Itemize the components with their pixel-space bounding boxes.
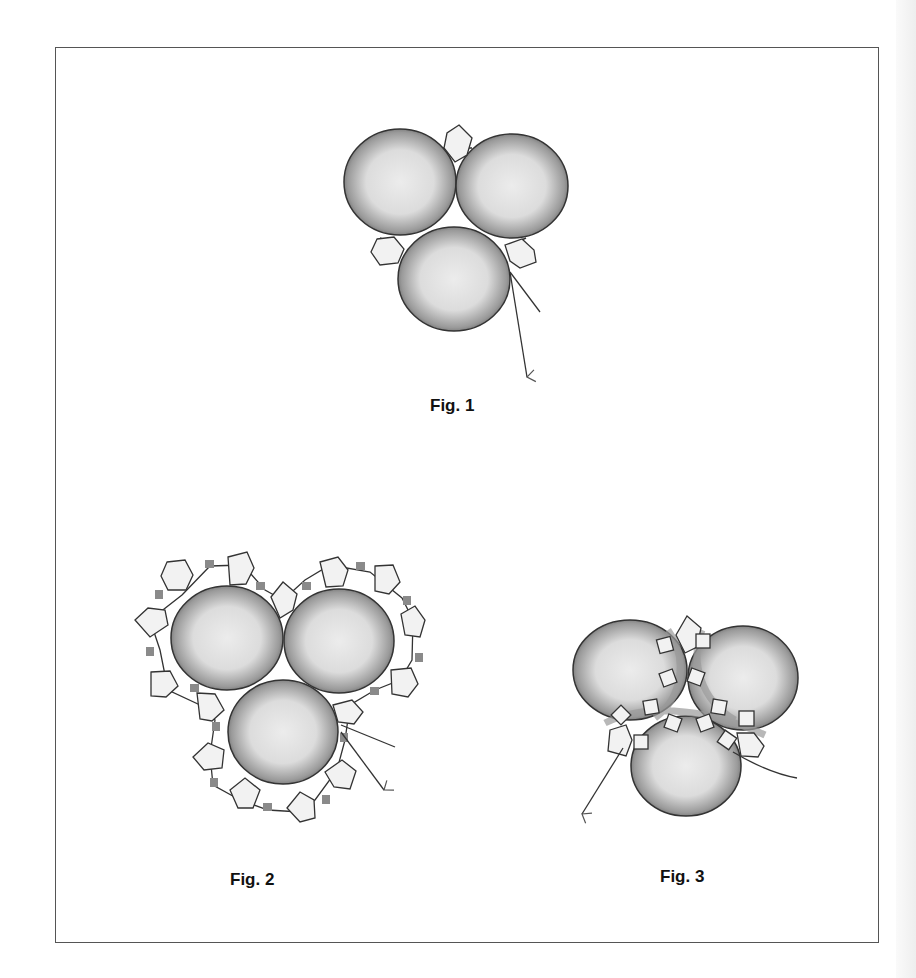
pentagon-bead: [391, 668, 418, 697]
seed-bead: [256, 582, 265, 590]
pentagon-bead: [325, 760, 356, 789]
pentagon-bead: [135, 608, 168, 637]
seed-bead: [146, 647, 154, 656]
square-bead: [696, 634, 710, 648]
pentagon-bead: [320, 557, 348, 587]
seed-bead: [403, 596, 411, 605]
pentagon-bead: [161, 560, 193, 590]
round-bead: [284, 589, 394, 693]
pentagon-bead: [228, 552, 254, 585]
square-bead: [643, 699, 659, 715]
seed-bead: [322, 795, 330, 804]
round-bead: [456, 134, 568, 238]
seed-bead: [370, 687, 379, 695]
square-bead: [711, 699, 727, 715]
figure-1-caption: Fig. 1: [430, 396, 474, 416]
pentagon-bead: [230, 778, 260, 808]
round-bead: [344, 129, 456, 235]
seed-bead: [155, 590, 163, 599]
seed-bead: [212, 722, 220, 731]
seed-bead: [415, 653, 423, 662]
seed-bead: [302, 582, 311, 590]
seed-bead: [263, 803, 272, 811]
pentagon-bead: [401, 606, 425, 637]
seed-bead: [356, 562, 365, 570]
pentagon-bead: [608, 725, 632, 756]
round-bead: [228, 680, 338, 784]
pentagon-bead: [737, 733, 764, 757]
pentagon-bead: [287, 792, 315, 822]
figure-2: [135, 552, 425, 822]
pentagon-bead: [375, 565, 400, 594]
figure-3: [573, 616, 798, 816]
square-bead: [656, 636, 673, 653]
hex-bead: [371, 237, 404, 265]
round-bead: [171, 586, 283, 690]
seed-bead: [190, 684, 199, 692]
square-bead: [634, 735, 648, 749]
pentagon-bead: [193, 743, 224, 770]
seed-bead: [210, 778, 218, 787]
round-bead: [398, 227, 510, 331]
pentagon-bead: [333, 700, 363, 724]
bead-diagrams: [0, 0, 916, 978]
figure-2-caption: Fig. 2: [230, 870, 274, 890]
seed-bead: [205, 560, 214, 568]
hex-bead: [505, 239, 536, 268]
pentagon-bead: [197, 693, 224, 721]
square-bead: [739, 711, 754, 726]
figure-3-caption: Fig. 3: [660, 867, 704, 887]
figure-1: [344, 125, 568, 377]
